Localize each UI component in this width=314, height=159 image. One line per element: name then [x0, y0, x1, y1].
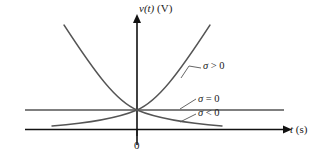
- sigma-symbol: σ: [198, 93, 203, 104]
- sigma-symbol: σ: [203, 60, 208, 71]
- x-axis-label-variable: t: [290, 123, 293, 135]
- x-axis-label-unit: (s): [296, 123, 308, 135]
- sigma-relation: < 0: [206, 107, 220, 118]
- x-axis-label: t (s): [290, 124, 307, 135]
- origin-label: 0: [134, 140, 140, 151]
- sigma-relation: = 0: [206, 93, 220, 104]
- y-axis-arrowhead: [133, 14, 141, 23]
- plot-canvas: [0, 0, 314, 159]
- leader-line-sigma-zero: [180, 99, 196, 109]
- curve-label-sigma-zero: σ = 0: [198, 94, 220, 105]
- y-axis-label-unit: (V): [157, 2, 172, 14]
- exponential-waveform-figure: v(t) (V) t (s) σ > 0 σ = 0 σ < 0 0: [0, 0, 314, 159]
- y-axis: [133, 14, 141, 145]
- sigma-symbol: σ: [198, 107, 203, 118]
- leader-line-sigma-positive: [181, 66, 201, 78]
- curve-sigma-positive: [52, 25, 210, 126]
- x-axis: [25, 126, 292, 137]
- leader-line-sigma-negative: [180, 114, 196, 122]
- y-axis-label: v(t) (V): [139, 3, 172, 14]
- y-axis-label-argument: (t): [144, 2, 154, 14]
- curve-label-sigma-negative: σ < 0: [198, 108, 220, 119]
- curve-label-sigma-positive: σ > 0: [203, 61, 225, 72]
- sigma-relation: > 0: [211, 60, 225, 71]
